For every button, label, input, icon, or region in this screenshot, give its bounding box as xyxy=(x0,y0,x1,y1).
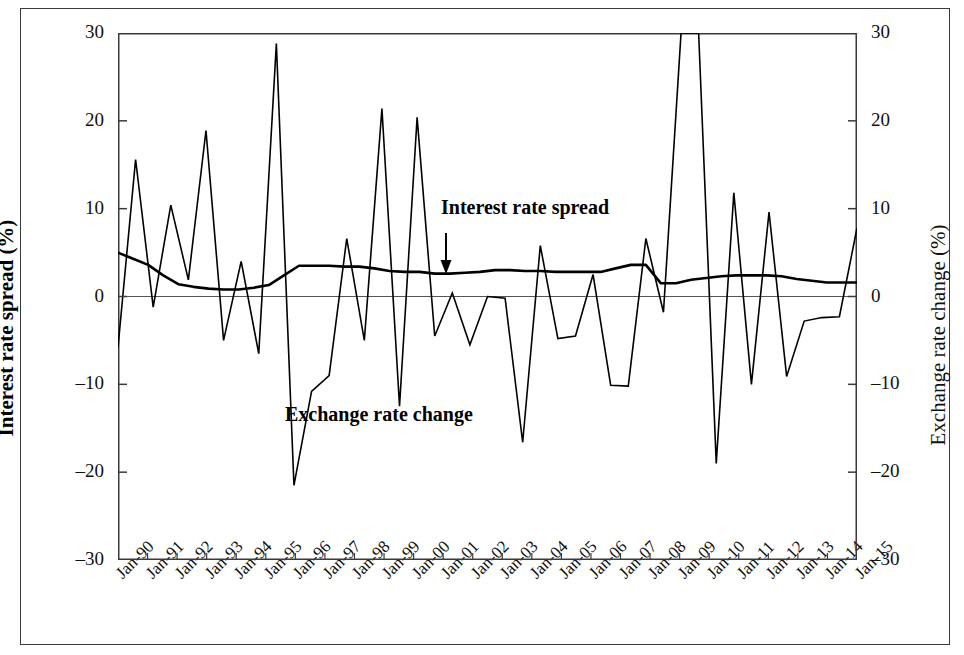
y-tick-label-left: 20 xyxy=(44,109,104,131)
plot-area xyxy=(118,33,857,560)
y-tick-label-right: –20 xyxy=(871,460,931,482)
y-tick-label-left: –10 xyxy=(44,372,104,394)
annotation-arrow-icon xyxy=(441,233,452,274)
exchange-rate-change-annotation: Exchange rate change xyxy=(285,403,473,426)
y-tick-label-left: 30 xyxy=(44,21,104,43)
figure-container: Interest rate spread (%) Exchange rate c… xyxy=(0,0,964,655)
y-tick-label-right: 20 xyxy=(871,109,931,131)
exchange-rate-change-line xyxy=(118,33,857,485)
left-axis-title: Interest rate spread (%) xyxy=(0,168,19,488)
right-axis-title: Exchange rate change (%) xyxy=(926,180,951,490)
y-tick-label-right: 0 xyxy=(871,285,931,307)
plot-svg xyxy=(118,33,857,560)
y-tick-label-right: 10 xyxy=(871,197,931,219)
y-tick-label-left: –30 xyxy=(44,548,104,570)
y-tick-label-left: 0 xyxy=(44,285,104,307)
y-tick-label-left: –20 xyxy=(44,460,104,482)
y-tick-label-right: 30 xyxy=(871,21,931,43)
y-tick-label-right: –10 xyxy=(871,372,931,394)
interest-rate-spread-annotation: Interest rate spread xyxy=(441,196,609,219)
y-tick-label-left: 10 xyxy=(44,197,104,219)
interest-rate-spread-line xyxy=(118,253,857,290)
